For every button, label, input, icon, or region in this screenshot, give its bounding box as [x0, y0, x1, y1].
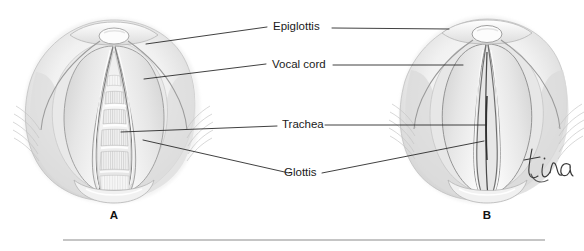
label-vocal-cord: Vocal cord [272, 58, 326, 70]
label-glottis: Glottis [284, 166, 317, 178]
label-epiglottis: Epiglottis [273, 20, 320, 32]
panel-label-b: B [483, 209, 491, 221]
panel-b-closed-glottis: B [389, 16, 584, 221]
panel-b-epiglottic-tubercle [472, 26, 502, 43]
anatomy-figure: A [0, 0, 584, 251]
label-group: Epiglottis Vocal cord Trachea Glottis [272, 20, 326, 178]
larynx-illustration-canvas: A [0, 0, 584, 251]
leader-epiglottis-right [332, 28, 449, 29]
panel-b-glottic-chink-dark [486, 96, 487, 160]
label-trachea: Trachea [282, 118, 324, 130]
panel-a-open-glottis: A [13, 18, 213, 221]
panel-label-a: A [110, 209, 118, 221]
